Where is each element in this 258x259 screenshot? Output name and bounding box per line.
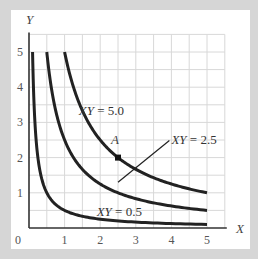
y-axis-label: Y xyxy=(26,12,35,27)
x-tick-label: 5 xyxy=(204,233,210,247)
y-tick-label: 4 xyxy=(17,80,23,94)
x-tick-label: 2 xyxy=(97,233,103,247)
x-axis-label: X xyxy=(235,221,245,236)
y-tick-label: 1 xyxy=(17,186,23,200)
curve-label: XY = 5.0 xyxy=(78,103,124,118)
x-tick-label: 0 xyxy=(15,233,21,247)
x-tick-label: 1 xyxy=(62,233,68,247)
point-label: A xyxy=(110,132,119,147)
curve-label: XY = 2.5 xyxy=(170,132,216,147)
x-tick-label: 3 xyxy=(133,233,139,247)
y-tick-label: 2 xyxy=(17,151,23,165)
indifference-curves-chart: 01234512345XYXY = 5.0XY = 2.5XY = 0.5A xyxy=(0,0,258,259)
y-tick-label: 5 xyxy=(17,45,23,59)
y-tick-label: 3 xyxy=(17,115,23,129)
x-tick-label: 4 xyxy=(168,233,174,247)
point-marker xyxy=(115,155,121,161)
leader-line xyxy=(118,141,169,183)
curve-label: XY = 0.5 xyxy=(96,204,142,219)
